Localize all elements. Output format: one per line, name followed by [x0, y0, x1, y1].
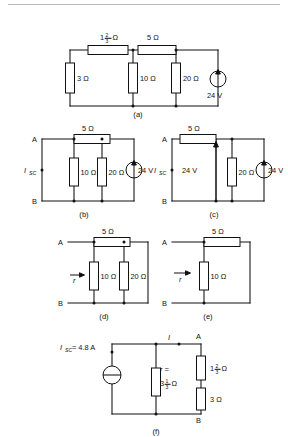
svg-text:Ω: Ω: [222, 364, 228, 373]
resistor-5-ohm: [180, 135, 216, 144]
resistor-20-ohm: [120, 262, 129, 290]
junction-dot: [155, 413, 158, 416]
caption-a: (a): [133, 110, 143, 119]
junction-dot: [175, 49, 178, 52]
terminal-dot-source: [111, 351, 114, 354]
resistor-20-ohm: [98, 158, 107, 186]
circuit-figure-c: A B I SC 5 Ω 24 V 20 Ω 24 V (c): [152, 128, 280, 218]
junction-dot: [123, 302, 126, 305]
terminal-label-b: B: [58, 299, 63, 308]
label-short-circuit-current: I SC: [24, 166, 36, 176]
label-resistor-10-ohm: 10 Ω: [211, 272, 227, 281]
label-voltage-source-right: 24 V: [268, 166, 283, 175]
caption-f: (f): [152, 427, 160, 436]
label-voltage-source: 24 V: [207, 91, 222, 100]
label-short-circuit-current-source: I SC = 4.8 A: [60, 343, 95, 353]
resistor-10-ohm: [90, 262, 99, 290]
label-resistor-1-2-3-ohm: 1 2 3 Ω: [210, 363, 228, 375]
junction-dot: [101, 138, 104, 141]
junction-dot: [73, 200, 76, 203]
junction-dot: [93, 241, 96, 244]
caption-d: (d): [99, 312, 109, 321]
voltage-source-arrow-left: [214, 142, 219, 202]
label-resistor-r: r = 3 1 3 Ω: [160, 365, 178, 390]
svg-text:1: 1: [100, 33, 104, 42]
label-voltage-source: 24 V: [138, 166, 153, 175]
branch-current-dot: [178, 343, 181, 346]
label-branch-current-i: I: [168, 333, 170, 342]
junction-dot: [231, 200, 234, 203]
svg-text:r =: r =: [160, 365, 170, 374]
resistor-5-ohm: [204, 238, 240, 247]
caption-b: (b): [79, 210, 89, 219]
terminal-label-a: A: [196, 332, 201, 341]
resistor-5-ohm: [74, 135, 110, 144]
junction-dot: [73, 138, 76, 141]
top-divider-rule: [8, 4, 280, 5]
junction-dot: [123, 241, 126, 244]
svg-text:I: I: [60, 343, 62, 352]
circuit-figure-f: I SC = 4.8 A I A B r = 3 1 3 Ω 1 2 3 Ω 3…: [56, 330, 254, 435]
terminal-label-a: A: [58, 238, 63, 247]
caption-e: (e): [203, 312, 213, 321]
label-resistor-20-ohm: 20 Ω: [239, 168, 255, 177]
svg-text:3: 3: [166, 384, 169, 390]
figure-page: 1 2 3 Ω 5 Ω 3 Ω 10 Ω 20 Ω 24 V (a) A B: [0, 0, 288, 437]
resistor-1-2-3-ohm: [88, 46, 128, 55]
label-voltage-source-left: 24 V: [182, 166, 197, 175]
svg-text:3: 3: [216, 369, 219, 375]
label-resistor-5-ohm: 5 Ω: [188, 124, 200, 133]
junction-dot: [203, 302, 206, 305]
terminal-label-a: A: [162, 238, 167, 247]
label-resistor-5-ohm: 5 Ω: [212, 227, 224, 236]
label-resistor-5-ohm: 5 Ω: [102, 227, 114, 236]
svg-text:1: 1: [210, 364, 214, 373]
junction-dot: [231, 138, 234, 141]
resistor-3-ohm: [197, 388, 206, 410]
terminal-label-b: B: [162, 299, 167, 308]
label-resistor-1-2-3-ohm: 1 2 3 Ω: [100, 32, 119, 44]
junction-dot: [93, 302, 96, 305]
label-resistor-10-ohm: 10 Ω: [81, 168, 97, 177]
junction-dot: [215, 200, 218, 203]
circuit-figure-e: A B r 5 Ω 10 Ω (e): [152, 228, 264, 320]
junction-dot: [132, 105, 135, 108]
svg-text:3: 3: [106, 38, 109, 44]
label-resistor-10-ohm: 10 Ω: [101, 272, 117, 281]
label-resistor-3-ohm: 3 Ω: [77, 74, 89, 83]
circuit-figure-b: A B I SC 5 Ω 10 Ω 20 Ω 24 V (b): [22, 128, 150, 218]
resistance-direction-arrow: [174, 271, 191, 275]
resistor-3-ohm: [66, 63, 75, 93]
resistor-1-2-3-ohm: [197, 356, 206, 380]
terminal-dot-a: [41, 169, 44, 172]
junction-dot: [175, 105, 178, 108]
svg-text:I: I: [154, 166, 156, 175]
junction-dot: [203, 241, 206, 244]
label-resistor-10-ohm: 10 Ω: [140, 74, 156, 83]
svg-text:Ω: Ω: [172, 379, 178, 388]
circuit-figure-d: A B r 5 Ω 10 Ω 20 Ω (d): [48, 228, 160, 320]
label-resistor-3-ohm: 3 Ω: [210, 395, 222, 404]
resistor-20-ohm: [228, 158, 237, 186]
caption-c: (c): [210, 210, 219, 219]
junction-dot: [101, 200, 104, 203]
resistor-5-ohm: [138, 46, 176, 55]
resistor-10-ohm: [200, 262, 209, 290]
terminal-label-a: A: [162, 135, 167, 144]
terminal-label-b: B: [162, 197, 167, 206]
svg-text:SC: SC: [159, 170, 166, 176]
junction-dot: [155, 343, 158, 346]
label-resistor-20-ohm: 20 Ω: [109, 168, 125, 177]
svg-text:SC: SC: [29, 170, 36, 176]
terminal-label-b: B: [32, 197, 37, 206]
svg-text:Ω: Ω: [113, 33, 119, 42]
svg-text:= 4.8 A: = 4.8 A: [72, 343, 95, 352]
svg-text:I: I: [24, 166, 26, 175]
label-resistor-20-ohm: 20 Ω: [131, 272, 147, 281]
terminal-dot-a: [171, 169, 174, 172]
terminal-label-b: B: [196, 416, 201, 425]
label-resistance-r: r: [179, 275, 182, 284]
label-resistor-5-ohm: 5 Ω: [147, 33, 159, 42]
terminal-label-a: A: [32, 135, 37, 144]
svg-text:3: 3: [160, 379, 164, 388]
